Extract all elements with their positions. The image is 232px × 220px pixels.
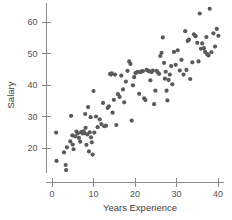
y-axis: 2030405060 <box>27 3 51 173</box>
data-point <box>121 87 125 91</box>
data-point <box>198 11 202 15</box>
data-point <box>143 98 147 102</box>
data-point <box>65 145 69 149</box>
data-point <box>163 77 167 81</box>
data-point <box>78 140 82 144</box>
data-point <box>188 77 192 81</box>
data-point <box>88 115 92 119</box>
data-point <box>179 58 183 62</box>
y-tick-label-50: 50 <box>27 49 37 59</box>
data-point <box>88 130 92 134</box>
data-point <box>202 46 206 50</box>
data-point <box>206 53 210 57</box>
x-tick-label-10: 10 <box>88 189 98 199</box>
x-tick-label-30: 30 <box>171 189 181 199</box>
data-point <box>196 59 200 63</box>
data-point <box>71 147 75 151</box>
data-point <box>84 143 88 147</box>
data-point <box>86 105 90 109</box>
data-point <box>54 159 58 163</box>
data-point <box>216 34 220 38</box>
data-point <box>209 50 213 54</box>
data-point <box>153 89 157 93</box>
data-point <box>107 104 111 108</box>
data-point <box>84 126 88 130</box>
data-point <box>165 98 169 102</box>
data-point <box>119 73 123 77</box>
x-axis-title: Years Experience <box>103 202 177 213</box>
data-point <box>195 41 199 45</box>
data-point <box>164 89 168 93</box>
x-tick-label-20: 20 <box>130 189 140 199</box>
data-point <box>184 68 188 72</box>
data-point <box>152 102 156 106</box>
x-tick-label-0: 0 <box>49 189 54 199</box>
data-point <box>170 82 174 86</box>
data-point <box>181 73 185 77</box>
data-point <box>90 140 94 144</box>
data-point <box>183 29 187 33</box>
data-points-layer <box>54 7 220 172</box>
data-point <box>215 27 219 31</box>
y-tick-label-20: 20 <box>27 143 37 153</box>
y-axis-title: Salary <box>5 81 16 108</box>
data-point <box>92 130 96 134</box>
data-point <box>208 7 212 11</box>
data-point <box>169 64 173 68</box>
data-point <box>87 149 91 153</box>
chart-canvas: 2030405060 010203040 Years Experience Sa… <box>0 0 232 220</box>
data-point <box>71 142 75 146</box>
x-axis: 010203040 <box>46 178 224 199</box>
data-point <box>101 101 105 105</box>
data-point <box>178 68 182 72</box>
data-point <box>128 62 132 66</box>
data-point <box>151 68 155 72</box>
data-point <box>113 73 117 77</box>
data-point <box>64 168 68 172</box>
y-tick-label-60: 60 <box>27 17 37 27</box>
data-point <box>211 31 215 35</box>
data-point <box>204 35 208 39</box>
data-point <box>62 150 66 154</box>
data-point <box>94 114 98 118</box>
data-point <box>174 63 178 67</box>
data-point <box>130 118 134 122</box>
data-point <box>125 69 129 73</box>
data-point <box>91 153 95 157</box>
data-point <box>190 60 194 64</box>
data-point <box>77 136 81 140</box>
data-point <box>167 78 171 82</box>
data-point <box>159 51 163 55</box>
data-point <box>168 73 172 77</box>
data-point <box>89 135 93 139</box>
data-point <box>162 61 166 65</box>
data-point <box>104 124 108 128</box>
data-point <box>161 35 165 39</box>
data-point <box>83 112 87 116</box>
data-point <box>69 114 73 118</box>
scatter-plot-figure: 2030405060 010203040 Years Experience Sa… <box>0 0 232 220</box>
data-point <box>124 79 128 83</box>
data-point <box>114 123 118 127</box>
data-point <box>200 41 204 45</box>
data-point <box>176 48 180 52</box>
data-point <box>118 95 122 99</box>
data-point <box>137 92 141 96</box>
data-point <box>110 111 114 115</box>
data-point <box>213 44 217 48</box>
data-point <box>54 130 58 134</box>
data-point <box>193 34 197 38</box>
data-point <box>91 89 95 93</box>
data-point <box>131 83 135 87</box>
data-point <box>96 125 100 129</box>
data-point <box>172 50 176 54</box>
data-point <box>148 78 152 82</box>
data-point <box>112 98 116 102</box>
data-point <box>98 117 102 121</box>
data-point <box>187 38 191 42</box>
data-point <box>164 70 168 74</box>
data-point <box>157 72 161 76</box>
y-tick-label-30: 30 <box>27 112 37 122</box>
data-point <box>132 75 136 79</box>
x-tick-label-40: 40 <box>213 189 223 199</box>
